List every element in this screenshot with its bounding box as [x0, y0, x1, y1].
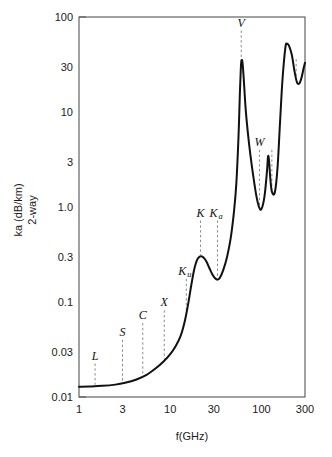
band-label-text: S	[120, 325, 126, 339]
y-tick-label: 1.0	[58, 201, 73, 213]
x-tick-label: 10	[164, 403, 176, 415]
y-tick-label: 100	[55, 11, 73, 23]
band-label-text: V	[238, 16, 247, 30]
band-label: S	[120, 325, 126, 339]
band-label: Ka	[209, 206, 223, 222]
axis-ticks	[79, 17, 86, 397]
band-label-text: K	[209, 206, 219, 220]
band-label: X	[160, 295, 169, 309]
y-tick-label: 0.03	[52, 346, 73, 358]
y-axis-title-line1: ka (dB/km)	[12, 183, 24, 236]
band-label-text: K	[196, 206, 206, 220]
x-axis-title: f(GHz)	[176, 430, 208, 442]
attenuation-chart-figure: LSCXKuKKaVW 0.010.030.10.31.031030100 13…	[0, 0, 332, 457]
y-axis-tick-labels: 0.010.030.10.31.031030100	[52, 11, 73, 403]
band-label: K	[196, 206, 206, 220]
band-labels: LSCXKuKKaVW	[91, 16, 266, 363]
x-tick-label: 3	[119, 403, 125, 415]
attenuation-line	[79, 44, 305, 387]
y-tick-label: 3	[67, 156, 73, 168]
y-tick-label: 10	[61, 106, 73, 118]
y-tick-label: 30	[61, 61, 73, 73]
band-label-subscript: a	[219, 211, 223, 221]
x-tick-label: 300	[296, 403, 314, 415]
band-label: W	[254, 135, 265, 149]
chart-canvas: LSCXKuKKaVW 0.010.030.10.31.031030100 13…	[0, 0, 332, 457]
band-label-text: W	[254, 135, 265, 149]
y-axis-title-line2: 2-way	[26, 195, 38, 225]
y-tick-label: 0.3	[58, 251, 73, 263]
band-label-text: X	[160, 295, 169, 309]
band-label: C	[139, 308, 148, 322]
band-label: L	[91, 349, 99, 363]
y-tick-label: 0.1	[58, 296, 73, 308]
band-label-text: L	[91, 349, 99, 363]
x-tick-label: 1	[76, 403, 82, 415]
plot-frame	[79, 17, 305, 397]
y-tick-label: 0.01	[52, 391, 73, 403]
attenuation-curve	[79, 44, 305, 387]
x-tick-label: 100	[252, 403, 270, 415]
axis-titles: f(GHz) ka (dB/km) 2-way	[12, 183, 208, 442]
band-label: Ku	[177, 264, 191, 280]
x-tick-label: 30	[208, 403, 220, 415]
band-label-text: K	[177, 264, 187, 278]
band-label: V	[238, 16, 247, 30]
x-axis-tick-labels: 131030100300	[76, 403, 314, 415]
band-label-subscript: u	[187, 269, 191, 279]
band-label-text: C	[139, 308, 148, 322]
